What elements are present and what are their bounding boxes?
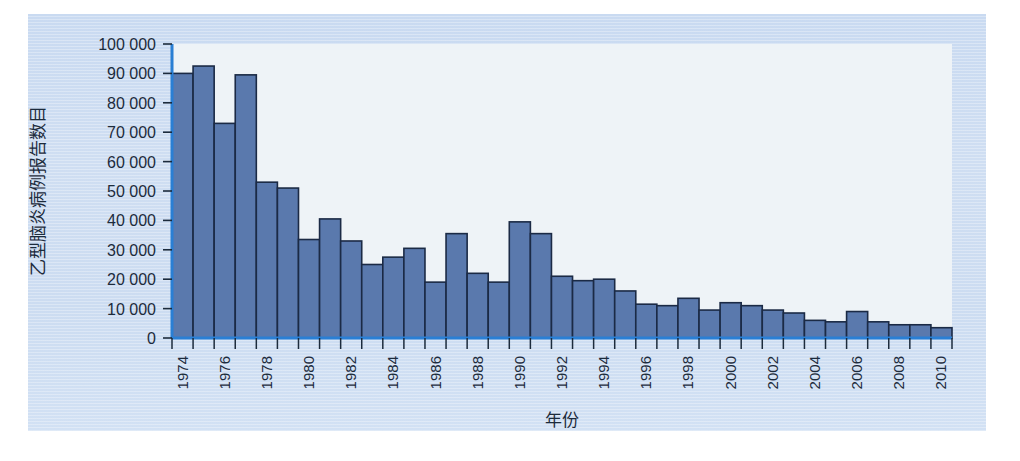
bar-2008 [889,325,910,338]
x-tick-label: 1998 [679,356,696,389]
bar-1997 [657,306,678,338]
x-tick-label: 2008 [890,356,907,389]
x-tick-label: 2002 [764,356,781,389]
x-tick-label: 1996 [637,356,654,389]
bar-1989 [488,282,509,338]
x-tick-label: 2010 [932,356,949,389]
bar-1988 [467,273,488,338]
bar-2010 [931,328,952,338]
bar-1975 [193,66,214,338]
bar-1980 [298,240,319,338]
y-tick-label: 70 000 [107,124,156,141]
bar-1977 [235,75,256,338]
x-tick-label: 1974 [174,356,191,389]
bar-1985 [404,248,425,338]
y-tick-label: 20 000 [107,271,156,288]
bar-1998 [678,298,699,338]
bar-1999 [699,310,720,338]
x-tick-label: 1992 [553,356,570,389]
y-tick-label: 30 000 [107,242,156,259]
x-tick-label: 1982 [342,356,359,389]
y-axis-ticks: 010 00020 00030 00040 00050 00060 00070 … [98,36,172,347]
y-tick-label: 10 000 [107,301,156,318]
x-tick-label: 1984 [384,356,401,389]
x-tick-label: 1994 [595,356,612,389]
bar-2002 [762,310,783,338]
x-tick-label: 2006 [848,356,865,389]
bar-1978 [256,182,277,338]
x-axis-title: 年份 [545,411,579,430]
bar-chart: 010 00020 00030 00040 00050 00060 00070 … [0,0,1020,461]
bar-1979 [277,188,298,338]
bar-1983 [362,265,383,339]
bar-2001 [741,306,762,338]
bar-1996 [636,304,657,338]
x-tick-label: 1986 [427,356,444,389]
x-tick-label: 1990 [511,356,528,389]
x-tick-label: 1976 [216,356,233,389]
bar-1982 [341,241,362,338]
bar-1992 [551,276,572,338]
bar-1984 [383,257,404,338]
bar-2006 [847,312,868,338]
y-tick-label: 80 000 [107,95,156,112]
bar-1993 [573,281,594,338]
bar-2003 [783,313,804,338]
bar-1991 [530,234,551,338]
bar-2005 [826,322,847,338]
bar-2004 [804,320,825,338]
x-axis-ticks [172,338,952,349]
bar-1987 [446,234,467,338]
bar-1974 [172,73,193,338]
x-tick-label: 1980 [300,356,317,389]
y-tick-label: 60 000 [107,154,156,171]
bar-1981 [320,219,341,338]
y-tick-label: 100 000 [98,36,156,53]
y-tick-label: 90 000 [107,65,156,82]
y-tick-label: 40 000 [107,212,156,229]
bar-1990 [509,222,530,338]
bar-2009 [910,325,931,338]
x-tick-label: 2000 [722,356,739,389]
x-tick-label: 1978 [258,356,275,389]
bar-1994 [594,279,615,338]
bar-2000 [720,303,741,338]
x-tick-label: 1988 [469,356,486,389]
y-axis-title: 乙型脑炎病例报告数目 [29,106,48,276]
bar-1995 [615,291,636,338]
y-tick-label: 0 [147,330,156,347]
y-tick-label: 50 000 [107,183,156,200]
bar-1986 [425,282,446,338]
bar-1976 [214,123,235,338]
x-tick-label: 2004 [806,356,823,389]
chart-figure: 010 00020 00030 00040 00050 00060 00070 … [0,0,1020,461]
bar-2007 [868,322,889,338]
